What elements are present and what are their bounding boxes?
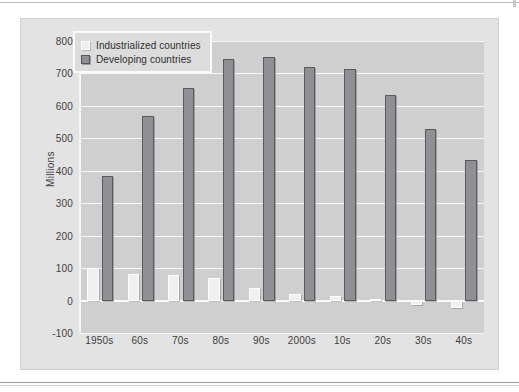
page-canvas: Millions -1000100200300400500600700800 1… — [0, 0, 519, 392]
bar-dev-20s — [385, 95, 396, 301]
legend-item-industrialized: Industrialized countries — [81, 38, 201, 52]
legend-label-industrialized: Industrialized countries — [96, 40, 201, 51]
x-tick-2000s: 2000s — [282, 335, 323, 351]
bar-ind-30s — [411, 301, 422, 306]
chart-card: Millions -1000100200300400500600700800 1… — [20, 18, 499, 370]
bar-ind-80s — [208, 278, 219, 301]
bar-ind-2000s — [289, 294, 300, 300]
y-tick-300: 300 — [56, 198, 73, 209]
bar-ind-70s — [168, 275, 179, 300]
x-tick-40s: 40s — [444, 335, 485, 351]
bar-ind-90s — [249, 288, 260, 300]
legend-label-developing: Developing countries — [96, 54, 191, 65]
y-tick-400: 400 — [56, 165, 73, 176]
x-tick-90s: 90s — [241, 335, 282, 351]
page-rule-top — [0, 2, 519, 3]
bar-dev-1950s — [102, 176, 113, 301]
plot-area: -1000100200300400500600700800 — [79, 41, 484, 333]
x-tick-20s: 20s — [363, 335, 404, 351]
bar-group-80s — [201, 41, 241, 333]
x-tick-30s: 30s — [403, 335, 444, 351]
x-tick-1950s: 1950s — [79, 335, 120, 351]
bar-group-1950s — [80, 41, 120, 333]
bar-group-20s — [363, 41, 403, 333]
page-rule-bottom — [0, 382, 519, 383]
bar-ind-60s — [128, 274, 139, 301]
bar-group-60s — [120, 41, 160, 333]
bar-ind-20s — [370, 299, 381, 301]
bar-group-10s — [322, 41, 362, 333]
bar-group-30s — [403, 41, 443, 333]
y-tick-200: 200 — [56, 230, 73, 241]
chart-legend: Industrialized countries Developing coun… — [73, 31, 212, 73]
plot-background — [79, 41, 484, 333]
legend-item-developing: Developing countries — [81, 52, 201, 66]
page-corner-mark — [513, 0, 516, 7]
x-tick-60s: 60s — [120, 335, 161, 351]
gridline--100 — [80, 333, 484, 334]
bar-ind-40s — [451, 301, 462, 308]
bar-ind-1950s — [87, 268, 98, 300]
y-tick-700: 700 — [56, 68, 73, 79]
bar-dev-40s — [465, 160, 476, 300]
y-axis-title: Millions — [45, 151, 56, 187]
y-tick-100: 100 — [56, 263, 73, 274]
legend-swatch-developing-icon — [81, 55, 90, 64]
bar-dev-10s — [344, 69, 355, 301]
y-tick-500: 500 — [56, 133, 73, 144]
bar-dev-30s — [425, 129, 436, 300]
y-tick-800: 800 — [56, 36, 73, 47]
y-tick-600: 600 — [56, 100, 73, 111]
bar-dev-2000s — [304, 67, 315, 301]
y-tick--100: -100 — [52, 328, 73, 339]
y-tick-0: 0 — [67, 295, 73, 306]
page-rule-bottom-secondary — [0, 385, 519, 386]
bar-group-40s — [444, 41, 484, 333]
bar-group-70s — [161, 41, 201, 333]
bar-group-90s — [242, 41, 282, 333]
bar-dev-60s — [142, 116, 153, 301]
bar-ind-10s — [330, 296, 341, 300]
bar-dev-90s — [263, 57, 274, 300]
x-tick-10s: 10s — [322, 335, 363, 351]
x-tick-70s: 70s — [160, 335, 201, 351]
bar-dev-70s — [183, 88, 194, 301]
bar-groups — [80, 41, 484, 333]
bar-group-2000s — [282, 41, 322, 333]
x-tick-labels: 1950s60s70s80s90s2000s10s20s30s40s — [79, 335, 484, 351]
x-tick-80s: 80s — [201, 335, 242, 351]
legend-swatch-industrialized-icon — [81, 41, 90, 50]
bar-dev-80s — [223, 59, 234, 301]
